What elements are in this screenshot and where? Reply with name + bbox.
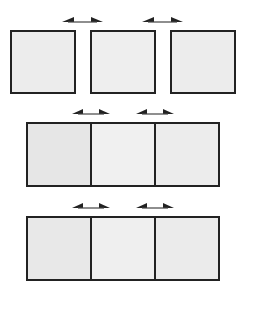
joined-strip — [26, 216, 220, 281]
joined-strip — [26, 122, 220, 187]
double-arrow-icon — [142, 16, 183, 24]
double-arrow-icon — [136, 108, 174, 116]
square-2 — [92, 218, 156, 279]
square-2 — [90, 30, 156, 94]
square-1 — [10, 30, 76, 94]
double-arrow-icon — [72, 202, 110, 210]
double-arrow-icon — [136, 202, 174, 210]
square-1 — [28, 218, 92, 279]
square-3 — [170, 30, 236, 94]
double-arrow-icon — [62, 16, 103, 24]
square-3 — [156, 218, 218, 279]
square-1 — [28, 124, 92, 185]
square-3 — [156, 124, 218, 185]
square-2 — [92, 124, 156, 185]
double-arrow-icon — [72, 108, 110, 116]
